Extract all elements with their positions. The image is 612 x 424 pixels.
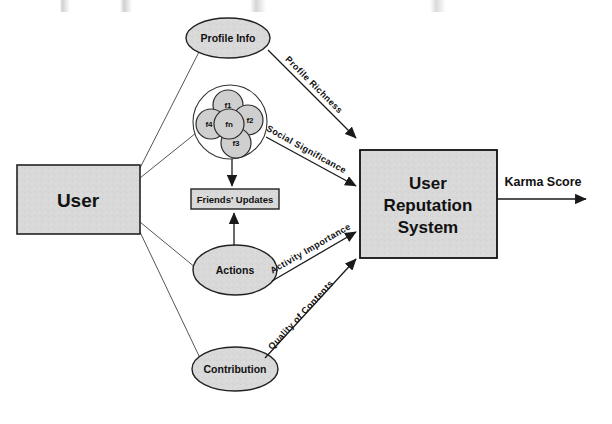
connector-user-to-friend-cluster — [140, 133, 196, 178]
connector-user-to-actions — [140, 222, 196, 268]
user-label: User — [57, 190, 100, 211]
reputation-system-label-line1: User — [409, 174, 447, 193]
edge-label-activity-importance: Activity Importance — [269, 221, 353, 275]
contribution-label: Contribution — [204, 363, 267, 375]
friend-label-f3: f3 — [232, 139, 240, 148]
friend-label-f2: f2 — [246, 116, 254, 125]
connector-user-to-profile-info — [140, 50, 200, 168]
node-friends-updates[interactable]: Friends' Updates — [191, 189, 279, 209]
arrow-social-significance — [266, 137, 356, 186]
friends-updates-label: Friends' Updates — [197, 194, 274, 205]
node-profile-info[interactable]: Profile Info — [186, 18, 270, 58]
friend-label-f4: f4 — [205, 120, 213, 129]
profile-info-label: Profile Info — [201, 32, 256, 44]
actions-label: Actions — [216, 264, 255, 276]
friend-label-f1: f1 — [224, 101, 232, 110]
node-user[interactable]: User — [17, 165, 140, 234]
node-friend-cluster[interactable]: f1 f2 f3 f4 fn — [193, 85, 267, 159]
connector-user-to-contribution — [140, 232, 200, 358]
karma-score-label: Karma Score — [504, 175, 581, 189]
node-user-reputation-system[interactable]: User Reputation System — [360, 150, 497, 258]
diagram-canvas: User Profile Info f1 f2 f3 f4 fn Friends… — [0, 0, 612, 424]
edge-label-profile-richness: Profile Richness — [283, 54, 344, 115]
edge-label-quality-of-contents: Quality of Contents — [266, 278, 335, 351]
reputation-system-label-line2: Reputation — [384, 196, 473, 215]
diagram-svg: User Profile Info f1 f2 f3 f4 fn Friends… — [0, 0, 612, 424]
reputation-system-label-line3: System — [398, 218, 458, 237]
edge-label-social-significance: Social Significance — [265, 123, 348, 175]
arrow-profile-richness — [268, 50, 356, 138]
node-contribution[interactable]: Contribution — [192, 347, 278, 391]
friend-label-fn: fn — [225, 120, 233, 129]
node-actions[interactable]: Actions — [193, 245, 277, 295]
